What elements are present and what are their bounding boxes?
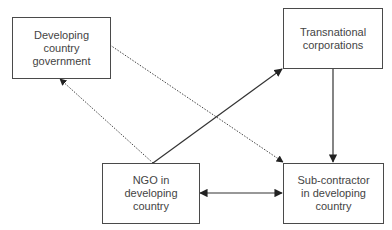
node-sub-contractor: Sub-contractor in developing country (283, 163, 384, 224)
edge-ngo-to-gov-dotted (60, 79, 153, 163)
edge-ngo-to-tnc (153, 69, 282, 163)
edge-gov-to-sub-dotted (110, 45, 283, 162)
node-ngo-in-developing-country: NGO in developing country (102, 163, 200, 224)
node-developing-country-government: Developing country government (12, 17, 111, 79)
node-transnational-corporations: Transnational corporations (283, 8, 383, 69)
